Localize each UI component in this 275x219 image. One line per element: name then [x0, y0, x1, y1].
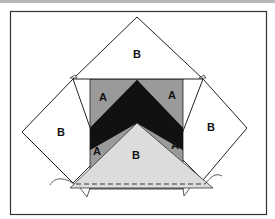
- label-left-b: B: [57, 126, 65, 138]
- label-lower-right-a: A: [171, 139, 179, 151]
- label-upper-left-a: A: [99, 91, 107, 103]
- label-right-b: B: [207, 121, 215, 133]
- quilt-diagram: B B B B A A A A: [0, 0, 275, 219]
- label-bottom-b: B: [132, 149, 140, 161]
- label-upper-right-a: A: [168, 89, 176, 101]
- label-lower-left-a: A: [93, 145, 101, 157]
- label-top-b: B: [133, 48, 141, 60]
